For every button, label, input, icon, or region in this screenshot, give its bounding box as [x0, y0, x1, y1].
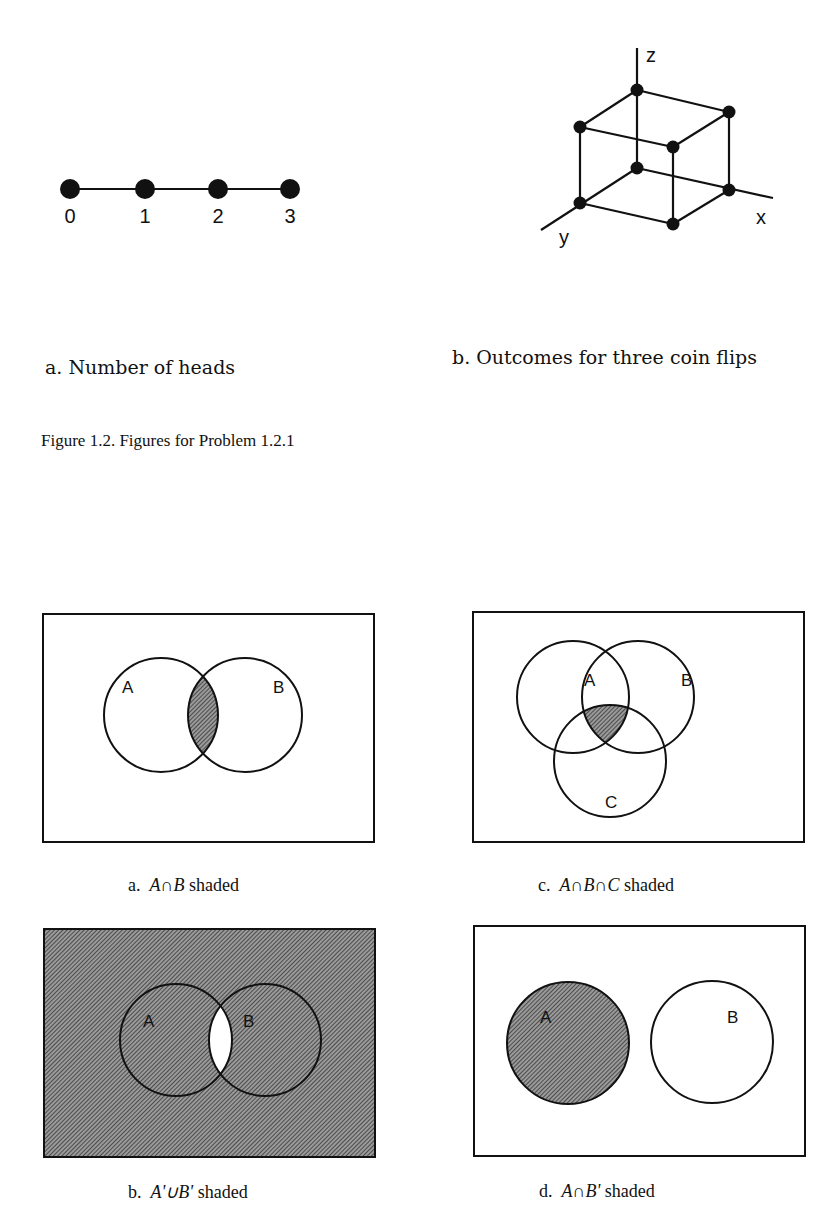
x-axis-label: x: [756, 206, 766, 229]
venn-c-caption: c. A∩B∩C shaded: [538, 875, 674, 896]
set-label-c: C: [605, 793, 617, 812]
venn-d-diagram: A B: [473, 925, 808, 1157]
venn-d-caption: d. A∩B' shaded: [539, 1181, 655, 1202]
venn-b-diagram: A B: [43, 928, 378, 1160]
set-label-a: A: [584, 671, 596, 690]
set-label-a: A: [122, 678, 134, 697]
point-label-1: 1: [139, 205, 150, 228]
point-label-3: 3: [284, 205, 295, 228]
point-label-2: 2: [212, 205, 223, 228]
cube: [420, 0, 839, 300]
panel-a-caption: a. Number of heads: [45, 356, 235, 378]
set-label-b: B: [243, 1012, 254, 1031]
venn-a-caption: a. A∩B shaded: [128, 875, 239, 896]
y-axis-label: y: [559, 226, 569, 249]
venn-b-caption: b. A'∪B' shaded: [128, 1181, 248, 1203]
set-label-b: B: [681, 671, 692, 690]
set-label-b: B: [273, 678, 284, 697]
figure-title: Figure 1.2. Figures for Problem 1.2.1: [41, 431, 295, 451]
panel-b-caption: b. Outcomes for three coin flips: [452, 346, 757, 368]
venn-a-diagram: A B: [42, 613, 377, 845]
set-label-a: A: [540, 1008, 552, 1027]
z-axis-label: z: [646, 44, 656, 67]
set-label-a: A: [143, 1012, 155, 1031]
set-label-b: B: [727, 1008, 738, 1027]
venn-c-diagram: A B C: [472, 611, 807, 843]
point-label-0: 0: [64, 205, 75, 228]
number-line: [0, 0, 420, 300]
